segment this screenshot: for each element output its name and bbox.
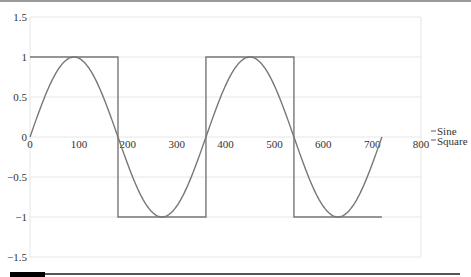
x-tick-label: 400 bbox=[217, 138, 234, 150]
x-tick-label: 600 bbox=[315, 138, 332, 150]
y-tick-label: −0.5 bbox=[7, 171, 27, 183]
x-tick-label: 500 bbox=[266, 138, 283, 150]
x-tick-label: 300 bbox=[168, 138, 185, 150]
x-tick-label: 0 bbox=[27, 138, 33, 150]
line-chart: 1.510.50−0.5−1−1.5 010020030040050060070… bbox=[0, 0, 471, 277]
x-tick-label: 100 bbox=[71, 138, 88, 150]
grid-lines bbox=[30, 17, 421, 257]
bottom-border bbox=[10, 273, 460, 275]
bottom-block bbox=[10, 272, 45, 277]
x-tick-label: 800 bbox=[413, 138, 430, 150]
y-tick-label: 0.5 bbox=[13, 91, 27, 103]
legend-label-square: Square bbox=[437, 135, 468, 147]
y-tick-label: 1 bbox=[22, 51, 28, 63]
x-axis-ticks: 0100200300400500600700800 bbox=[27, 138, 430, 150]
y-tick-label: −1 bbox=[15, 211, 27, 223]
legend: Sine Square bbox=[431, 125, 468, 147]
y-axis-ticks: 1.510.50−0.5−1−1.5 bbox=[7, 11, 27, 263]
y-tick-label: −1.5 bbox=[7, 251, 27, 263]
y-tick-label: 1.5 bbox=[13, 11, 27, 23]
